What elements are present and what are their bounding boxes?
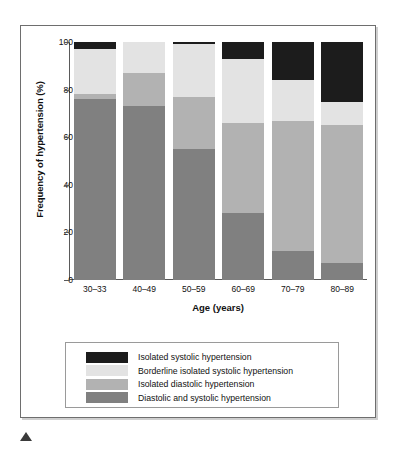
bar-segment[interactable] <box>222 213 264 280</box>
legend-label: Diastolic and systolic hypertension <box>138 393 271 403</box>
bar-segment[interactable] <box>173 42 215 44</box>
legend-label: Borderline isolated systolic hypertensio… <box>138 366 293 376</box>
x-tick-label: 60–69 <box>219 284 269 294</box>
bar-segment[interactable] <box>321 42 363 102</box>
bar-column[interactable] <box>173 42 215 280</box>
bar-segment[interactable] <box>173 149 215 280</box>
bar-column[interactable] <box>74 42 116 280</box>
bar-column[interactable] <box>272 42 314 280</box>
x-tick-label: 50–59 <box>169 284 219 294</box>
bar-segment[interactable] <box>321 263 363 280</box>
y-tick-mark <box>64 280 70 281</box>
bar-segment[interactable] <box>222 59 264 123</box>
bar-column[interactable] <box>222 42 264 280</box>
bar-stack <box>123 42 165 280</box>
legend-item[interactable]: Isolated diastolic hypertension <box>86 378 254 390</box>
bar-segment[interactable] <box>272 251 314 280</box>
legend-item[interactable]: Diastolic and systolic hypertension <box>86 392 271 404</box>
bar-stack <box>222 42 264 280</box>
bar-segment[interactable] <box>74 42 116 49</box>
legend-swatch <box>86 392 128 403</box>
bar-segment[interactable] <box>222 42 264 59</box>
x-tick-label: 40–49 <box>120 284 170 294</box>
bar-column[interactable] <box>321 42 363 280</box>
legend-swatch <box>86 379 128 390</box>
bar-segment[interactable] <box>123 106 165 280</box>
bars-layer <box>70 42 367 280</box>
bar-stack <box>173 42 215 280</box>
bar-segment[interactable] <box>272 42 314 80</box>
legend: Isolated systolic hypertensionBorderline… <box>65 342 339 408</box>
plot-area: Frequency of hypertension (%) 0204060801… <box>21 26 377 326</box>
bar-segment[interactable] <box>123 73 165 106</box>
bar-segment[interactable] <box>74 99 116 280</box>
bar-segment[interactable] <box>272 121 314 252</box>
page-marker-triangle-icon <box>20 432 32 441</box>
legend-label: Isolated systolic hypertension <box>138 352 251 362</box>
bar-column[interactable] <box>123 42 165 280</box>
legend-swatch <box>86 352 128 363</box>
x-axis-title: Age (years) <box>69 302 367 313</box>
bar-stack <box>321 42 363 280</box>
x-tick-label: 80–89 <box>318 284 368 294</box>
x-tick-label: 30–33 <box>70 284 120 294</box>
bar-segment[interactable] <box>272 80 314 120</box>
legend-swatch <box>86 365 128 376</box>
bar-segment[interactable] <box>321 125 363 263</box>
bar-segment[interactable] <box>123 42 165 73</box>
bar-stack <box>272 42 314 280</box>
figure-frame: Frequency of hypertension (%) 0204060801… <box>20 25 376 418</box>
bar-stack <box>74 42 116 280</box>
legend-label: Isolated diastolic hypertension <box>138 379 254 389</box>
legend-item[interactable]: Isolated systolic hypertension <box>86 351 251 363</box>
bar-segment[interactable] <box>74 94 116 99</box>
bar-segment[interactable] <box>222 123 264 213</box>
legend-item[interactable]: Borderline isolated systolic hypertensio… <box>86 365 293 377</box>
x-tick-label: 70–79 <box>268 284 318 294</box>
bar-segment[interactable] <box>74 49 116 94</box>
bar-segment[interactable] <box>321 102 363 126</box>
bar-segment[interactable] <box>173 44 215 96</box>
bar-segment[interactable] <box>173 97 215 149</box>
